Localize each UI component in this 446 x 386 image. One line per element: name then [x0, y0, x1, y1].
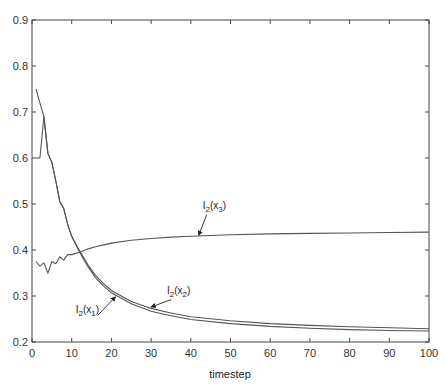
x-tick-label: 80: [343, 347, 355, 359]
x-tick-label: 50: [224, 347, 236, 359]
y-tick-label: 0.8: [13, 60, 28, 72]
plot-frame: [32, 20, 429, 342]
annotation-arrow: [151, 300, 171, 307]
y-tick-label: 0.2: [13, 336, 28, 348]
y-tick-label: 0.7: [13, 106, 28, 118]
x-tick-label: 20: [105, 347, 117, 359]
series-line-2: [36, 117, 429, 329]
x-tick-label: 100: [420, 347, 438, 359]
x-axis-label: timestep: [209, 368, 251, 380]
annotation-arrow: [199, 215, 207, 236]
chart: 01020304050607080901000.20.30.40.50.60.7…: [0, 0, 446, 386]
series-label-3: I2(x3): [203, 200, 226, 214]
x-tick-label: 10: [66, 347, 78, 359]
x-tick-label: 60: [264, 347, 276, 359]
series-line-1: [36, 89, 429, 331]
x-tick-label: 0: [29, 347, 35, 359]
series-label-2: I2(x2): [167, 285, 190, 299]
x-tick-label: 40: [185, 347, 197, 359]
y-tick-label: 0.4: [13, 244, 28, 256]
series-label-1: I2(x1): [76, 304, 99, 318]
y-tick-label: 0.6: [13, 152, 28, 164]
x-tick-label: 90: [383, 347, 395, 359]
y-tick-label: 0.5: [13, 198, 28, 210]
y-tick-label: 0.9: [13, 14, 28, 26]
y-tick-label: 0.3: [13, 290, 28, 302]
annotations: I2(x3)I2(x2)I2(x1): [76, 200, 226, 319]
x-tick-label: 70: [304, 347, 316, 359]
annotation-arrow: [98, 297, 116, 316]
series-layer: [36, 89, 429, 331]
x-tick-label: 30: [145, 347, 157, 359]
series-line-3: [36, 232, 429, 273]
